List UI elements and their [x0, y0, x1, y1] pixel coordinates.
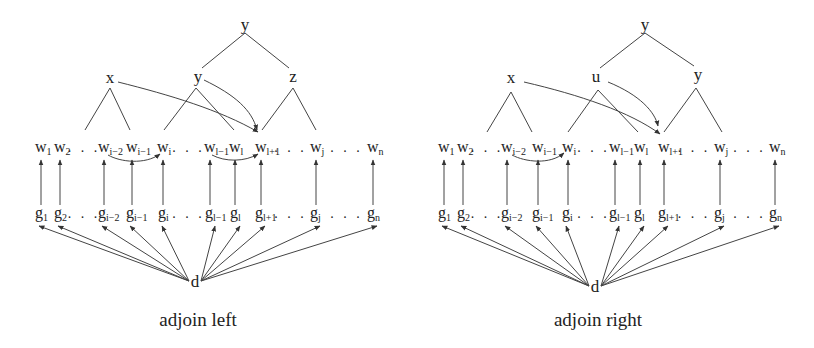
- gene-label: gl: [230, 204, 241, 223]
- d-to-gene-arrow: [201, 226, 377, 281]
- d-to-gene-arrow: [201, 226, 320, 281]
- tree-node-root: y: [641, 15, 650, 34]
- root-d-node: d: [591, 277, 600, 296]
- word-label: wl: [634, 138, 649, 157]
- gene-label: gl+1: [658, 204, 679, 223]
- ellipsis: . . .: [577, 140, 610, 155]
- diagram-right-nodes: yxuyw1w2wi−2wi−1wiwl−1wlwl+1wjwng1g2gi−2…: [438, 15, 786, 330]
- word-label: wi−2: [501, 138, 526, 157]
- d-to-gene-arrow: [601, 226, 668, 286]
- word-label: wi−1: [532, 138, 557, 157]
- gene-label: gl−1: [609, 204, 630, 223]
- d-to-gene-arrow: [601, 226, 724, 286]
- d-to-gene-arrow: [505, 226, 589, 286]
- ellipsis: . . .: [471, 140, 504, 155]
- ellipsis: . . .: [577, 206, 610, 221]
- d-to-gene-arrow: [442, 226, 589, 286]
- dynamic-layer: yxyzw1w2wi−2wi−1wiwl−1wlwl+1wjwng1g2gi−2…: [35, 15, 786, 330]
- d-to-gene-arrow: [601, 226, 779, 286]
- gene-label: gi−1: [126, 204, 147, 223]
- ellipsis: . . .: [471, 206, 504, 221]
- ellipsis: . . .: [678, 206, 711, 221]
- gene-label: g2: [457, 204, 470, 223]
- ellipsis: . . .: [172, 140, 205, 155]
- gene-label: gi−2: [98, 204, 119, 223]
- ellipsis: . . .: [274, 206, 307, 221]
- d-to-gene-arrow: [201, 226, 265, 281]
- gene-label: gl: [634, 204, 645, 223]
- d-to-gene-arrow: [58, 226, 189, 281]
- ellipsis: . . .: [330, 206, 363, 221]
- word-label: w1: [35, 138, 52, 157]
- gene-label: gi: [562, 204, 573, 223]
- gene-label: gl−1: [205, 204, 226, 223]
- word-label: wi−2: [98, 138, 123, 157]
- ellipsis: . . .: [68, 206, 101, 221]
- word-label: wi−1: [126, 138, 151, 157]
- word-label: wj: [310, 138, 324, 157]
- tree-node-x: x: [106, 68, 115, 87]
- tree-node-x: x: [507, 68, 516, 87]
- caption-right: adjoin right: [554, 309, 643, 330]
- gene-label: gi−2: [501, 204, 522, 223]
- tree-node-right: z: [289, 67, 297, 86]
- word-label: wj: [714, 138, 728, 157]
- ellipsis: . . .: [678, 140, 711, 155]
- word-label: wn: [367, 138, 384, 157]
- gene-label: gl+1: [255, 204, 276, 223]
- tree-node-right: y: [694, 65, 703, 84]
- word-label: wi: [562, 138, 577, 157]
- ellipsis: . . .: [68, 140, 101, 155]
- gene-label: g2: [54, 204, 67, 223]
- word-label: wi: [157, 138, 172, 157]
- gene-label: g1: [438, 204, 451, 223]
- tree-node-mid: u: [592, 67, 601, 86]
- gene-label: gi−1: [532, 204, 553, 223]
- word-label: w1: [438, 138, 455, 157]
- tree-node-root: y: [241, 15, 250, 34]
- tree-edges: [487, 33, 722, 132]
- ellipsis: . . .: [172, 206, 205, 221]
- root-d-node: d: [191, 272, 200, 291]
- gene-label: gi: [158, 204, 169, 223]
- d-to-gene-arrow: [201, 226, 240, 281]
- word-label: wl−1: [204, 138, 229, 157]
- d-to-gene-arrow: [536, 226, 589, 286]
- gene-label: g1: [35, 204, 48, 223]
- word-label: wn: [769, 138, 786, 157]
- d-to-gene-arrow: [201, 226, 215, 281]
- gene-label: gn: [769, 204, 782, 223]
- word-label: wl: [229, 138, 244, 157]
- ellipsis: . . .: [330, 140, 363, 155]
- adjoin-diagrams: yxyzw1w2wi−2wi−1wiwl−1wlwl+1wjwng1g2gi−2…: [0, 0, 814, 348]
- caption-left: adjoin left: [159, 309, 237, 330]
- d-to-gene-arrow: [601, 226, 619, 286]
- d-to-gene-arrow: [601, 226, 644, 286]
- d-to-gene-arrow: [130, 226, 189, 281]
- gene-label: gj: [310, 204, 321, 223]
- ellipsis: . . .: [733, 140, 766, 155]
- gene-label: gn: [367, 204, 380, 223]
- tree-node-mid: y: [194, 67, 203, 86]
- word-label: wl−1: [609, 138, 634, 157]
- ellipsis: . . .: [733, 206, 766, 221]
- ellipsis: . . .: [274, 140, 307, 155]
- gene-label: gj: [714, 204, 725, 223]
